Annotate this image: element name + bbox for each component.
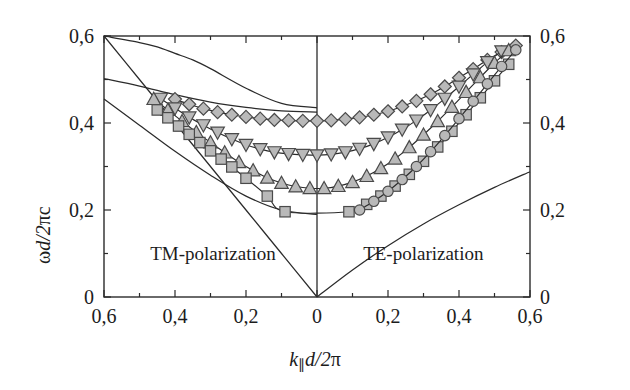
data-marker-circle (482, 79, 492, 89)
data-marker-square (184, 129, 194, 139)
y-axis-d-over-2: d/2 (32, 225, 54, 251)
data-marker-square (163, 113, 173, 123)
data-marker-square (195, 137, 205, 147)
x-tick-label: 0,6 (92, 305, 117, 327)
data-marker-square (227, 162, 237, 172)
y-tick-label-right: 0,6 (540, 25, 565, 47)
x-tick-label: 0,2 (376, 305, 401, 327)
x-axis-d-over-2: d/2 (305, 348, 331, 370)
data-marker-circle (454, 113, 464, 123)
y-tick-label-left: 0,4 (69, 112, 94, 134)
te-polarization-label: TE-polarization (363, 243, 484, 264)
data-marker-square (241, 173, 251, 183)
tm-polarization-label: TM-polarization (150, 243, 276, 264)
x-tick-label: 0,4 (447, 305, 472, 327)
data-marker-circle (468, 96, 478, 106)
data-marker-circle (397, 174, 407, 184)
chart-svg: 0,60,40,200,20,40,6000,20,20,40,40,60,6T… (0, 0, 630, 390)
x-tick-label: 0,2 (234, 305, 259, 327)
chart-figure: 0,60,40,200,20,40,6000,20,20,40,40,60,6T… (0, 0, 630, 390)
data-marker-square (216, 154, 226, 164)
data-marker-square (173, 121, 183, 131)
x-axis-title: k∥d/2π (0, 348, 630, 373)
data-marker-square (152, 105, 162, 115)
y-tick-label-right: 0,4 (540, 112, 565, 134)
y-axis-omega: ω (32, 251, 54, 264)
data-marker-circle (369, 196, 379, 206)
y-tick-label-right: 0,2 (540, 199, 565, 221)
y-tick-label-right: 0 (540, 286, 550, 308)
data-marker-square (205, 146, 215, 156)
y-tick-label-left: 0 (84, 286, 94, 308)
y-axis-title: ωd/2πc (2, 118, 42, 268)
y-axis-pi-c: πc (32, 206, 54, 225)
figure-root: 0,60,40,200,20,40,6000,20,20,40,40,60,6T… (0, 0, 630, 390)
x-axis-pi: π (331, 348, 341, 370)
y-tick-label-left: 0,6 (69, 25, 94, 47)
data-marker-circle (440, 130, 450, 140)
x-tick-label: 0,6 (518, 305, 543, 327)
data-marker-square (280, 207, 290, 217)
data-marker-square (262, 191, 272, 201)
data-marker-circle (496, 61, 506, 71)
data-marker-circle (411, 161, 421, 171)
x-tick-label: 0 (312, 305, 322, 327)
data-marker-circle (425, 147, 435, 157)
y-tick-label-left: 0,2 (69, 199, 94, 221)
data-marker-circle (354, 205, 364, 215)
data-marker-circle (511, 45, 521, 55)
x-tick-label: 0,4 (163, 305, 188, 327)
data-marker-circle (383, 186, 393, 196)
x-axis-k: k (289, 348, 298, 370)
data-marker-square (344, 207, 354, 217)
